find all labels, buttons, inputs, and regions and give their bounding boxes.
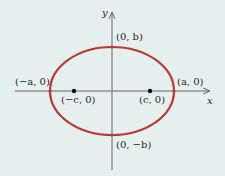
label-neg-a: (−a, 0) <box>15 77 50 87</box>
ellipse-diagram: y x (0, b) (0, −b) (−a, 0) (a, 0) (−c, 0… <box>0 0 225 176</box>
diagram-canvas <box>0 0 225 176</box>
covertex-pos-b <box>110 45 113 48</box>
vertex-neg-a <box>48 89 51 92</box>
focus-pos-c <box>148 89 152 93</box>
label-pos-c: (c, 0) <box>139 95 165 105</box>
vertex-pos-a <box>172 89 175 92</box>
label-neg-b: (0, −b) <box>116 140 151 150</box>
label-pos-b: (0, b) <box>116 32 143 42</box>
focus-neg-c <box>72 89 76 93</box>
x-axis-label: x <box>207 96 213 106</box>
covertex-neg-b <box>110 133 113 136</box>
label-pos-a: (a, 0) <box>177 77 203 87</box>
label-neg-c: (−c, 0) <box>61 95 96 105</box>
y-axis-label: y <box>102 8 108 18</box>
